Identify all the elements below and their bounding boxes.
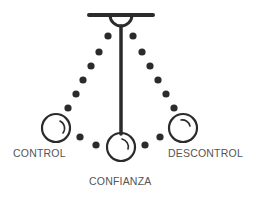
left-ball-highlight [60, 121, 65, 133]
trail-dot [170, 104, 177, 111]
trail-dot [141, 141, 148, 148]
right-ball-highlight [181, 120, 190, 126]
label-descontrol: DESCONTROL [168, 147, 243, 159]
trail-dot [146, 62, 153, 69]
label-control: CONTROL [13, 147, 66, 159]
left-ball [42, 114, 70, 142]
trail-dot [76, 133, 83, 140]
right-ball [169, 114, 197, 142]
trail-dot [87, 62, 94, 69]
trail-dot [156, 133, 163, 140]
trail-dot [72, 90, 79, 97]
center-ball-highlight [122, 139, 128, 149]
trail-dot [138, 48, 145, 55]
trail-dot [154, 76, 161, 83]
trail-dot [162, 90, 169, 97]
trail-dot [92, 141, 99, 148]
trail-dot [64, 104, 71, 111]
trail-dot [95, 48, 102, 55]
pendulum-diagram [0, 0, 260, 197]
trail-dot [129, 32, 136, 39]
label-confianza: CONFIANZA [89, 175, 151, 187]
trail-dot [104, 32, 111, 39]
trail-dot [79, 76, 86, 83]
center-ball [107, 133, 135, 161]
